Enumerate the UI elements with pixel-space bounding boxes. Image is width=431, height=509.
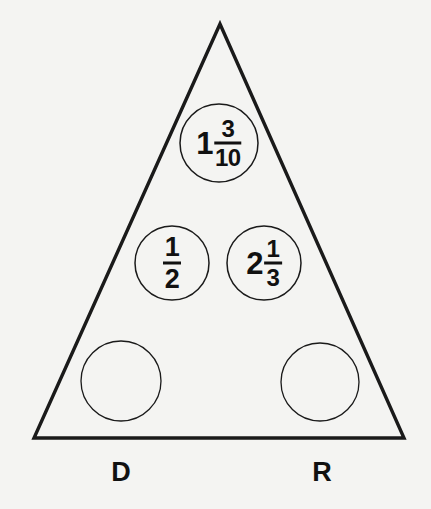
corner-label-d: D xyxy=(111,457,131,487)
slot-middle-left-denominator: 2 xyxy=(164,266,181,293)
triangle-outline xyxy=(34,24,404,438)
diagram-canvas: D R xyxy=(0,0,431,509)
slot-top-whole: 1 xyxy=(196,128,213,159)
slot-value-top[interactable]: 1 3 10 xyxy=(196,117,241,170)
slot-top-fraction: 3 10 xyxy=(214,117,242,170)
slot-middle-right-fraction: 1 3 xyxy=(264,237,282,290)
slot-middle-left-numerator: 1 xyxy=(164,234,181,261)
slot-value-middle-left[interactable]: 1 2 xyxy=(163,234,181,293)
fraction-triangle-diagram: D R 1 3 10 1 2 2 1 3 xyxy=(0,0,431,509)
slot-middle-left-fraction: 1 2 xyxy=(163,234,181,293)
slot-top-numerator: 3 xyxy=(220,117,235,141)
slot-middle-right-whole: 2 xyxy=(246,248,263,279)
slot-value-middle-right[interactable]: 2 1 3 xyxy=(246,237,282,290)
corner-label-r: R xyxy=(312,457,332,487)
slot-top-denominator: 10 xyxy=(214,146,242,170)
slot-middle-right-numerator: 1 xyxy=(265,237,280,261)
slot-middle-right-denominator: 3 xyxy=(265,266,280,290)
